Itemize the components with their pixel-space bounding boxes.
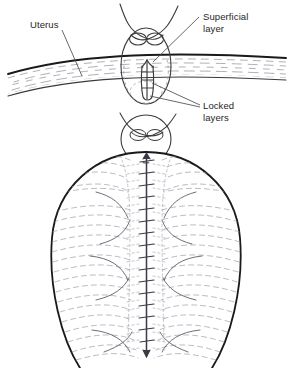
lower-panel-group [51,113,240,368]
label-uterus: Uterus [30,19,59,31]
label-locked-layers: Locked layers [203,100,234,123]
anatomical-diagram [0,0,292,368]
label-superficial-layer: Superficial layer [203,11,248,34]
suture-arrow-bottom [143,350,150,357]
figure-canvas: Uterus Superficial layer Locked layers [0,0,292,368]
cervical-canal-group [141,60,153,100]
sagittal-suture-group [139,153,154,357]
